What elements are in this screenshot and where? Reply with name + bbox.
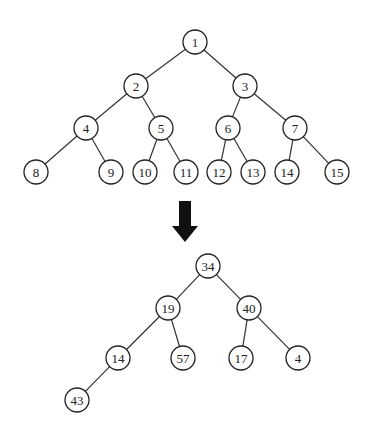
node-label: 1 bbox=[192, 35, 199, 50]
tree-edge bbox=[45, 136, 77, 164]
top-tree-edges bbox=[45, 49, 329, 164]
tree-node: 14 bbox=[106, 346, 130, 370]
tree-node: 34 bbox=[196, 254, 220, 278]
node-label: 43 bbox=[71, 393, 84, 408]
node-label: 15 bbox=[331, 165, 344, 180]
tree-edge bbox=[233, 97, 241, 117]
tree-node: 14 bbox=[275, 160, 299, 184]
tree-edge bbox=[167, 138, 180, 161]
bottom-tree-edges bbox=[85, 275, 289, 392]
tree-node: 7 bbox=[283, 116, 307, 140]
tree-node: 19 bbox=[156, 296, 180, 320]
node-label: 3 bbox=[242, 79, 249, 94]
tree-node: 9 bbox=[99, 160, 123, 184]
tree-edge bbox=[149, 139, 157, 160]
node-label: 34 bbox=[202, 259, 216, 274]
tree-edge bbox=[234, 138, 247, 161]
node-label: 2 bbox=[133, 79, 140, 94]
tree-edge bbox=[257, 317, 289, 350]
tree-edge bbox=[171, 319, 179, 346]
node-label: 7 bbox=[292, 121, 299, 136]
tree-node: 43 bbox=[65, 388, 89, 412]
tree-node: 3 bbox=[233, 74, 257, 98]
node-label: 4 bbox=[295, 351, 302, 366]
tree-node: 12 bbox=[207, 160, 231, 184]
tree-edge bbox=[92, 138, 105, 161]
node-label: 19 bbox=[162, 301, 175, 316]
node-label: 17 bbox=[235, 351, 249, 366]
tree-node: 11 bbox=[174, 160, 198, 184]
down-arrow-icon bbox=[172, 201, 198, 242]
tree-node: 57 bbox=[171, 346, 195, 370]
tree-edge bbox=[254, 94, 286, 121]
node-label: 13 bbox=[247, 165, 260, 180]
node-label: 12 bbox=[213, 165, 226, 180]
tree-edge bbox=[142, 96, 155, 117]
node-label: 8 bbox=[33, 165, 40, 180]
node-label: 57 bbox=[177, 351, 191, 366]
node-label: 14 bbox=[281, 165, 295, 180]
tree-diagram: 123456789101112131415 341940145717443 bbox=[0, 0, 370, 433]
node-label: 10 bbox=[139, 165, 152, 180]
node-label: 9 bbox=[108, 165, 115, 180]
tree-edge bbox=[221, 140, 225, 160]
tree-edge bbox=[85, 367, 109, 392]
tree-edge bbox=[95, 94, 127, 121]
tree-edge bbox=[216, 275, 240, 300]
tree-node: 17 bbox=[229, 346, 253, 370]
node-label: 40 bbox=[243, 301, 256, 316]
tree-node: 13 bbox=[241, 160, 265, 184]
tree-node: 6 bbox=[216, 116, 240, 140]
tree-node: 15 bbox=[325, 160, 349, 184]
node-label: 11 bbox=[180, 165, 193, 180]
tree-node: 10 bbox=[133, 160, 157, 184]
tree-edge bbox=[303, 137, 328, 164]
tree-node: 2 bbox=[124, 74, 148, 98]
node-label: 4 bbox=[83, 121, 90, 136]
tree-edge bbox=[146, 49, 186, 79]
tree-node: 8 bbox=[24, 160, 48, 184]
tree-node: 4 bbox=[286, 346, 310, 370]
tree-edge bbox=[126, 316, 159, 349]
tree-node: 1 bbox=[183, 30, 207, 54]
tree-node: 4 bbox=[74, 116, 98, 140]
tree-edge bbox=[243, 320, 247, 346]
tree-edge bbox=[289, 140, 293, 160]
node-label: 14 bbox=[112, 351, 126, 366]
tree-edge bbox=[176, 275, 199, 300]
node-label: 5 bbox=[158, 121, 165, 136]
tree-node: 40 bbox=[237, 296, 261, 320]
tree-node: 5 bbox=[149, 116, 173, 140]
node-label: 6 bbox=[225, 121, 232, 136]
arrow-shape bbox=[172, 201, 198, 242]
top-tree-nodes: 123456789101112131415 bbox=[24, 30, 349, 184]
tree-edge bbox=[204, 50, 236, 78]
